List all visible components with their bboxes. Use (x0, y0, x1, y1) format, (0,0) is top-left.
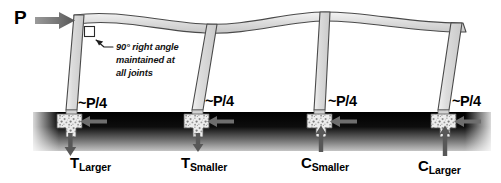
shear-label-support-3: ~P/4 (328, 94, 357, 109)
frame-load-diagram: P 90° right angle maintained at all join… (0, 0, 501, 183)
right-angle-annotation (85, 27, 114, 48)
note-line-3: all joints (116, 67, 220, 80)
reaction-symbol: T (70, 154, 79, 171)
reaction-subscript: Smaller (312, 161, 349, 173)
ground-band (33, 112, 491, 151)
right-angle-square-icon (85, 27, 95, 37)
note-line-2: maintained at (116, 54, 220, 67)
reaction-symbol: T (181, 154, 190, 171)
right-arrow-icon (35, 12, 75, 29)
reaction-subscript: Smaller (190, 161, 227, 173)
soil-left-fade (33, 112, 59, 151)
reaction-symbol: C (301, 154, 312, 171)
reaction-subscript: Larger (79, 161, 111, 173)
reaction-label-support-2: TSmaller (181, 155, 227, 170)
right-angle-note: 90° right angle maintained at all joints (116, 41, 220, 79)
load-label: P (14, 8, 27, 27)
reaction-symbol: C (418, 157, 429, 174)
soil-fill (33, 112, 491, 151)
lateral-load-arrow (35, 12, 75, 29)
shear-label-support-2: ~P/4 (205, 94, 234, 109)
note-line-1: 90° right angle (116, 41, 220, 54)
reaction-label-support-4: CLarger (418, 158, 461, 173)
deformed-beam (74, 12, 466, 33)
shear-label-support-4: ~P/4 (452, 94, 481, 109)
reaction-subscript: Larger (429, 164, 461, 176)
reaction-label-support-3: CSmaller (301, 155, 349, 170)
shear-label-support-1: ~P/4 (78, 96, 107, 111)
leader-arrowhead-icon (96, 40, 103, 46)
soil-right-fade (465, 112, 491, 151)
reaction-label-support-1: TLarger (70, 155, 111, 170)
